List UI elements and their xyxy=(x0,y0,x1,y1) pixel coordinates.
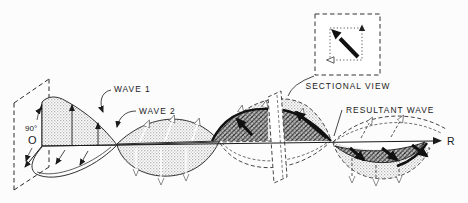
wave2-front-lobe xyxy=(32,146,116,177)
component-leaf-right-dashed xyxy=(333,116,446,142)
angle-label: 90° xyxy=(25,124,37,133)
wave2-label: WAVE 2 xyxy=(139,106,176,116)
wave2-back-lobe xyxy=(117,116,219,144)
axis-label: R xyxy=(447,135,455,147)
origin-label: O xyxy=(28,134,37,146)
resultant-wave-label: RESULTANT WAVE xyxy=(346,105,434,115)
wave-diagram: 90° O xyxy=(0,0,468,203)
wave1-label: WAVE 1 xyxy=(114,84,151,94)
figure-canvas: 90° O xyxy=(0,0,468,203)
wave1-crest xyxy=(42,97,117,146)
resultant-callout: RESULTANT WAVE xyxy=(334,105,434,136)
axis-arrow-icon xyxy=(433,137,442,145)
sectional-view-label: SECTIONAL VIEW xyxy=(306,81,391,91)
wave1-trough xyxy=(117,142,219,184)
